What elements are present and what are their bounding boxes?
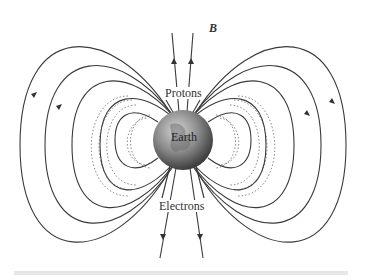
earth-label: Earth: [170, 131, 198, 143]
protons-label: Protons: [164, 87, 203, 99]
field-vector-label: B: [208, 22, 218, 34]
electrons-label: Electrons: [158, 200, 205, 212]
footer-divider: [14, 271, 348, 275]
